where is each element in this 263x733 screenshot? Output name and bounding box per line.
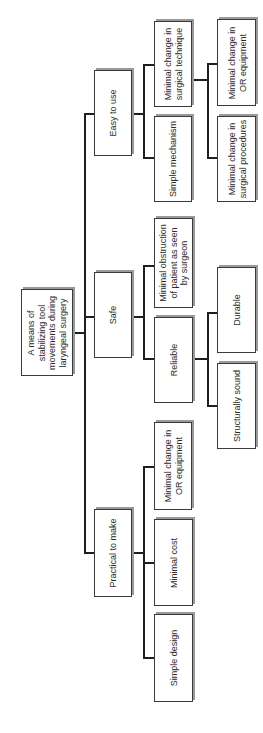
node-easy-to-use: Easy to use <box>94 70 132 156</box>
node-simple-design: Simple design <box>154 614 193 702</box>
connector-line <box>143 265 154 267</box>
node-label: Minimal obstruction of patient as seen b… <box>158 224 190 302</box>
node-safe: Safe <box>94 272 132 358</box>
connector-line <box>207 63 209 158</box>
connector-line <box>143 157 154 159</box>
node-practical-to-make: Practical to make <box>94 509 132 597</box>
connector-line <box>207 405 217 407</box>
node-minimal-cost: Minimal cost <box>154 519 193 606</box>
node-label: Minimal change in surgical technique <box>163 28 184 101</box>
node-label: Minimal change in OR equipment <box>226 26 247 99</box>
connector-line <box>84 552 94 554</box>
node-label: Safe <box>108 306 119 325</box>
node-minimal-change-or-equipment-technique: Minimal change in OR equipment <box>217 19 256 106</box>
node-simple-mechanism: Simple mechanism <box>154 116 192 202</box>
connector-line <box>143 657 154 659</box>
node-reliable: Reliable <box>154 317 193 403</box>
connector-line <box>143 358 154 360</box>
node-structurally-sound: Structurally sound <box>217 363 256 449</box>
node-label: Durable <box>231 294 242 326</box>
node-label: Minimal cost <box>168 537 179 587</box>
connector-line <box>193 358 208 360</box>
node-minimal-obstruction: Minimal obstruction of patient as seen b… <box>154 218 193 308</box>
node-label: Reliable <box>168 344 179 377</box>
connector-line <box>207 312 209 406</box>
connector-line <box>207 157 217 159</box>
node-minimal-change-or-equipment-practical: Minimal change in OR equipment <box>154 422 192 510</box>
node-minimal-change-surgical-procedures: Minimal change in surgical procedures <box>217 116 256 202</box>
node-minimal-change-surgical-technique: Minimal change in surgical technique <box>154 21 192 107</box>
node-durable: Durable <box>217 267 256 353</box>
node-label: Easy to use <box>108 89 119 136</box>
connector-line <box>143 466 154 468</box>
node-label: Simple design <box>168 630 179 687</box>
node-label: A means of stabilizing tool movements du… <box>26 295 68 369</box>
connector-line <box>143 64 145 158</box>
connector-line <box>84 113 86 553</box>
node-label: Minimal change in OR equipment <box>163 430 184 503</box>
node-label: Structurally sound <box>231 370 242 442</box>
connector-line <box>84 113 94 115</box>
node-label: Minimal change in surgical procedures <box>226 120 247 199</box>
connector-line <box>207 312 217 314</box>
objective-tree-diagram: A means of stabilizing tool movements du… <box>0 0 263 733</box>
connector-line <box>143 265 145 359</box>
connector-line <box>207 63 217 65</box>
connector-line <box>143 64 154 66</box>
node-label: Simple mechanism <box>168 121 179 197</box>
connector-line <box>192 79 208 81</box>
connector-line <box>143 562 154 564</box>
node-label: Practical to make <box>108 518 119 587</box>
node-root: A means of stabilizing tool movements du… <box>21 289 73 376</box>
connector-line <box>84 316 94 318</box>
